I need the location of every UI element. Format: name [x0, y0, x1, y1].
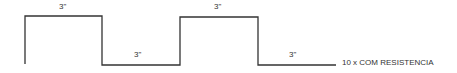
segment-2-label: 3": [134, 50, 141, 59]
caption: 10 x COM RESISTENCIA: [342, 58, 434, 67]
segment-3-label: 3": [214, 2, 221, 11]
segment-1-label: 3": [59, 2, 66, 11]
segment-4-label: 3": [289, 50, 296, 59]
